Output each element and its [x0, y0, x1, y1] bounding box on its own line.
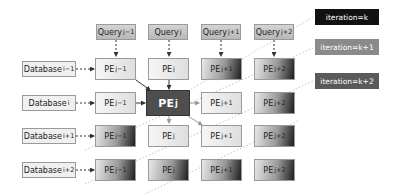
query-subscript: j+2 — [281, 28, 292, 36]
query-subscript: j−1 — [123, 28, 134, 36]
pe-subscript: j+2 — [274, 99, 285, 107]
query-label: Query — [256, 28, 280, 37]
database-box-i: Databasei — [22, 95, 76, 111]
pe-subscript: j−1 — [115, 132, 126, 140]
legend-iteration-k+1: iteration=k+1 — [315, 39, 379, 55]
pe-label: PE — [263, 166, 273, 175]
pe-subscript: j−1 — [115, 99, 126, 107]
query-box-j-1: Queryj−1 — [96, 24, 136, 40]
database-subscript: i−1 — [63, 65, 74, 73]
database-subscript: i+1 — [63, 132, 74, 140]
query-label: Query — [154, 28, 178, 37]
pe-cell-r4-c3: PEj+1 — [201, 159, 242, 181]
query-label: Query — [203, 28, 227, 37]
database-label: Database — [24, 132, 62, 141]
database-label: Database — [24, 166, 62, 175]
pe-subscript: j+1 — [221, 132, 232, 140]
pe-subscript: j+1 — [221, 99, 232, 107]
pe-label: PE — [162, 132, 172, 141]
pe-subscript: j — [173, 65, 175, 73]
pe-subscript: j+2 — [274, 132, 285, 140]
query-subscript: j+1 — [228, 28, 239, 36]
database-label: Database — [29, 99, 67, 108]
pe-label: PE — [263, 99, 273, 108]
pe-label: PE — [210, 99, 220, 108]
pe-label: PE — [104, 99, 114, 108]
query-label: Query — [98, 28, 122, 37]
pe-cell-r3-c2: PEj — [148, 125, 189, 147]
pe-cell-r2-c2-active: PEj — [146, 90, 190, 116]
legend-iteration-k+2: iteration=k+2 — [315, 73, 379, 89]
pe-label: PE — [158, 97, 174, 110]
pe-cell-r1-c3: PEj+1 — [201, 58, 242, 80]
pe-subscript: j+1 — [221, 166, 232, 174]
pe-cell-r1-c2: PEj — [148, 58, 189, 80]
database-subscript: i+2 — [63, 166, 74, 174]
pe-subscript: j+2 — [274, 166, 285, 174]
pe-subscript: j — [173, 132, 175, 140]
pe-cell-r4-c4: PEj+2 — [254, 159, 295, 181]
pe-subscript: j — [175, 99, 178, 108]
pe-label: PE — [263, 65, 273, 74]
pe-cell-r1-c1: PEj−1 — [95, 58, 136, 80]
pe-label: PE — [104, 166, 114, 175]
pe-subscript: j — [173, 166, 175, 174]
pe-subscript: j+2 — [274, 65, 285, 73]
query-box-j+1: Queryj+1 — [201, 24, 241, 40]
database-subscript: i — [68, 99, 70, 107]
database-box-i+2: Databasei+2 — [22, 162, 76, 178]
pe-label: PE — [263, 132, 273, 141]
pe-cell-r2-c3: PEj+1 — [201, 92, 242, 114]
database-label: Database — [24, 65, 62, 74]
pe-cell-r1-c4: PEj+2 — [254, 58, 295, 80]
pe-cell-r4-c1: PEj−1 — [95, 159, 136, 181]
query-subscript: j — [180, 28, 182, 36]
database-box-i+1: Databasei+1 — [22, 128, 76, 144]
query-box-j: Queryj — [148, 24, 188, 40]
legend-iteration-k: iteration=k — [315, 9, 379, 25]
pe-cell-r2-c4: PEj+2 — [254, 92, 295, 114]
pe-cell-r4-c2: PEj — [148, 159, 189, 181]
pe-cell-r3-c1: PEj−1 — [95, 125, 136, 147]
pe-cell-r3-c4: PEj+2 — [254, 125, 295, 147]
pe-label: PE — [210, 166, 220, 175]
pe-label: PE — [104, 132, 114, 141]
pe-label: PE — [162, 65, 172, 74]
pe-subscript: j−1 — [115, 65, 126, 73]
pe-cell-r3-c3: PEj+1 — [201, 125, 242, 147]
query-box-j+2: Queryj+2 — [254, 24, 294, 40]
pe-label: PE — [210, 65, 220, 74]
pe-subscript: j−1 — [115, 166, 126, 174]
pe-label: PE — [210, 132, 220, 141]
pe-subscript: j+1 — [221, 65, 232, 73]
database-box-i-1: Databasei−1 — [22, 61, 76, 77]
pe-label: PE — [104, 65, 114, 74]
pe-cell-r2-c1: PEj−1 — [95, 92, 136, 114]
pe-label: PE — [162, 166, 172, 175]
